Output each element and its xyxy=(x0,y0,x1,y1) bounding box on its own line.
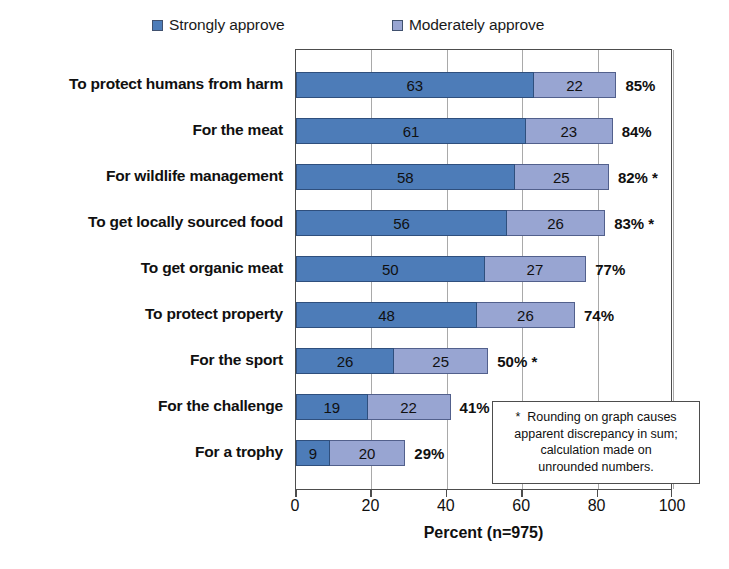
legend-entry-moderately-approve: Moderately approve xyxy=(392,16,544,34)
footnote-marker: * xyxy=(515,410,520,424)
bar-total-label: 83% * xyxy=(605,210,654,236)
footnote-box: * Rounding on graph causes apparent disc… xyxy=(492,401,700,484)
bar-total-label: 50% * xyxy=(488,348,537,374)
x-axis-title: Percent (n=975) xyxy=(295,524,672,542)
stacked-bar: 1922 xyxy=(296,394,451,420)
bar-segment-moderately-approve: 27 xyxy=(485,256,587,282)
bar-segment-moderately-approve: 23 xyxy=(526,118,613,144)
stacked-bar: 4826 xyxy=(296,302,575,328)
legend-swatch-strongly-approve xyxy=(152,20,163,31)
bar-segment-moderately-approve: 20 xyxy=(330,440,405,466)
chart-legend: Strongly approve Moderately approve xyxy=(0,16,729,42)
category-label: To get locally sourced food xyxy=(0,199,283,245)
category-label: To get organic meat xyxy=(0,245,283,291)
stacked-bar: 920 xyxy=(296,440,405,466)
bar-segment-moderately-approve: 26 xyxy=(507,210,605,236)
x-tick-label: 100 xyxy=(659,497,686,515)
bar-segment-moderately-approve: 26 xyxy=(477,302,575,328)
legend-label-moderately-approve: Moderately approve xyxy=(409,16,544,34)
category-axis-labels: To protect humans from harmFor the meatF… xyxy=(0,49,283,490)
bar-total-label: 29% xyxy=(405,440,444,466)
footnote-line-4: unrounded numbers. xyxy=(501,459,691,476)
x-axis-ticks xyxy=(295,490,672,497)
bar-segment-strongly-approve: 9 xyxy=(296,440,330,466)
bar-total-label: 85% xyxy=(616,72,655,98)
x-tick-0 xyxy=(295,490,297,497)
chart-row: 562683% * xyxy=(296,200,671,246)
x-tick-40 xyxy=(446,490,448,497)
legend-label-strongly-approve: Strongly approve xyxy=(169,16,285,34)
x-tick-60 xyxy=(521,490,523,497)
bar-segment-strongly-approve: 48 xyxy=(296,302,477,328)
x-tick-label: 60 xyxy=(512,497,530,515)
legend-swatch-moderately-approve xyxy=(392,20,403,31)
stacked-bar: 6123 xyxy=(296,118,613,144)
bar-total-label: 41% xyxy=(451,394,490,420)
bar-segment-moderately-approve: 25 xyxy=(394,348,488,374)
bar-segment-strongly-approve: 56 xyxy=(296,210,507,236)
bar-segment-strongly-approve: 58 xyxy=(296,164,515,190)
stacked-bar: 6322 xyxy=(296,72,616,98)
category-label: To protect property xyxy=(0,291,283,337)
category-label: To protect humans from harm xyxy=(0,61,283,107)
chart-row: 482674% xyxy=(296,292,671,338)
chart-row: 582582% * xyxy=(296,154,671,200)
x-tick-label: 20 xyxy=(361,497,379,515)
legend-entry-strongly-approve: Strongly approve xyxy=(152,16,285,34)
x-tick-20 xyxy=(370,490,372,497)
bar-segment-strongly-approve: 26 xyxy=(296,348,394,374)
x-tick-label: 0 xyxy=(291,497,300,515)
footnote-text-1: Rounding on graph causes xyxy=(527,410,676,424)
bar-segment-moderately-approve: 25 xyxy=(515,164,609,190)
x-tick-label: 80 xyxy=(588,497,606,515)
bar-segment-moderately-approve: 22 xyxy=(368,394,451,420)
bar-segment-strongly-approve: 19 xyxy=(296,394,368,420)
stacked-bar: 5626 xyxy=(296,210,605,236)
x-tick-80 xyxy=(597,490,599,497)
x-tick-label: 40 xyxy=(437,497,455,515)
bar-total-label: 84% xyxy=(613,118,652,144)
bar-segment-moderately-approve: 22 xyxy=(534,72,617,98)
category-label: For the sport xyxy=(0,337,283,383)
footnote-line-3: calculation made on xyxy=(501,442,691,459)
bar-segment-strongly-approve: 50 xyxy=(296,256,485,282)
bar-total-label: 77% xyxy=(586,256,625,282)
stacked-bar: 5027 xyxy=(296,256,586,282)
category-label: For a trophy xyxy=(0,429,283,475)
x-tick-100 xyxy=(671,490,673,497)
bar-total-label: 82% * xyxy=(609,164,658,190)
stacked-bar: 2625 xyxy=(296,348,488,374)
x-axis-tick-labels: 020406080100 xyxy=(295,497,672,519)
category-label: For wildlife management xyxy=(0,153,283,199)
bar-segment-strongly-approve: 61 xyxy=(296,118,526,144)
chart-row: 502777% xyxy=(296,246,671,292)
footnote-line-1: * Rounding on graph causes xyxy=(501,409,691,426)
chart-row: 262550% * xyxy=(296,338,671,384)
chart-row: 632285% xyxy=(296,62,671,108)
bar-total-label: 74% xyxy=(575,302,614,328)
category-label: For the meat xyxy=(0,107,283,153)
chart-row: 612384% xyxy=(296,108,671,154)
bar-segment-strongly-approve: 63 xyxy=(296,72,534,98)
footnote-line-2: apparent discrepancy in sum; xyxy=(501,426,691,443)
stacked-bar: 5825 xyxy=(296,164,609,190)
category-label: For the challenge xyxy=(0,383,283,429)
